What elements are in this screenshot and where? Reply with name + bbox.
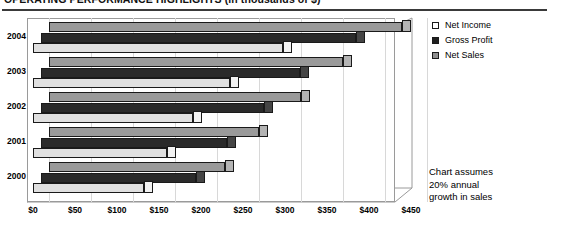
y-tick-label-2002: 2002 <box>0 101 26 111</box>
legend-label: Gross Profit <box>445 35 493 45</box>
bar-cap <box>402 20 411 32</box>
bar-cap <box>343 55 352 67</box>
y-tick-label-2001: 2001 <box>0 136 26 146</box>
annotation-line-3: growth in sales <box>429 191 549 204</box>
bar-gross-profit-2000 <box>41 173 196 183</box>
bar-cap <box>300 66 309 78</box>
bar-net-income-2004 <box>33 43 283 53</box>
bar-cap <box>259 125 268 137</box>
chart-title: OPERATING PERFORMANCE HIGHLIGHTS (in tho… <box>4 0 321 5</box>
x-tick-label: $350 <box>307 205 347 215</box>
x-tick-label: $400 <box>349 205 389 215</box>
x-tick-label: $100 <box>97 205 137 215</box>
legend-label: Net Sales <box>445 50 484 60</box>
bar-cap <box>264 101 273 113</box>
gridline <box>301 18 302 202</box>
y-tick-label-2003: 2003 <box>0 66 26 76</box>
bar-gross-profit-2002 <box>41 103 264 113</box>
chart-legend: Net IncomeGross ProfitNet Sales <box>432 20 493 65</box>
bar-cap <box>144 181 153 193</box>
title-rule <box>2 9 547 11</box>
bar-gross-profit-2004 <box>41 33 356 43</box>
legend-item-net-sales[interactable]: Net Sales <box>432 50 493 60</box>
legend-swatch-net-income-icon <box>432 22 439 29</box>
chart-annotation: Chart assumes 20% annual growth in sales <box>429 166 549 204</box>
bar-net-income-2002 <box>33 113 193 123</box>
legend-swatch-net-sales-icon <box>432 52 439 59</box>
bar-net-income-2001 <box>33 148 167 158</box>
x-tick-label: $50 <box>55 205 95 215</box>
y-tick-label-2000: 2000 <box>0 171 26 181</box>
gridline <box>385 18 386 202</box>
bar-net-income-2003 <box>33 78 230 88</box>
gridline <box>427 18 428 202</box>
bar-cap <box>196 171 205 183</box>
annotation-line-2: 20% annual <box>429 179 549 192</box>
bar-cap <box>301 90 310 102</box>
legend-label: Net Income <box>445 20 491 30</box>
bar-cap <box>356 31 365 43</box>
x-tick-label: $450 <box>391 205 431 215</box>
bar-gross-profit-2003 <box>41 68 300 78</box>
bar-net-sales-2004 <box>49 22 402 32</box>
x-tick-label: $300 <box>265 205 305 215</box>
bar-cap <box>230 76 239 88</box>
legend-swatch-gross-profit-icon <box>432 37 439 44</box>
legend-item-gross-profit[interactable]: Gross Profit <box>432 35 493 45</box>
legend-item-net-income[interactable]: Net Income <box>432 20 493 30</box>
bar-cap <box>225 160 234 172</box>
bar-gross-profit-2001 <box>41 138 227 148</box>
x-tick-label: $200 <box>181 205 221 215</box>
x-tick-label: $150 <box>139 205 179 215</box>
bar-cap <box>193 111 202 123</box>
bar-net-income-2000 <box>33 183 144 193</box>
annotation-line-1: Chart assumes <box>429 166 549 179</box>
bar-cap <box>227 136 236 148</box>
y-tick-label-2004: 2004 <box>0 31 26 41</box>
bar-cap <box>283 41 292 53</box>
bar-cap <box>167 146 176 158</box>
gridline <box>343 18 344 202</box>
x-tick-label: $250 <box>223 205 263 215</box>
x-tick-label: $0 <box>13 205 53 215</box>
